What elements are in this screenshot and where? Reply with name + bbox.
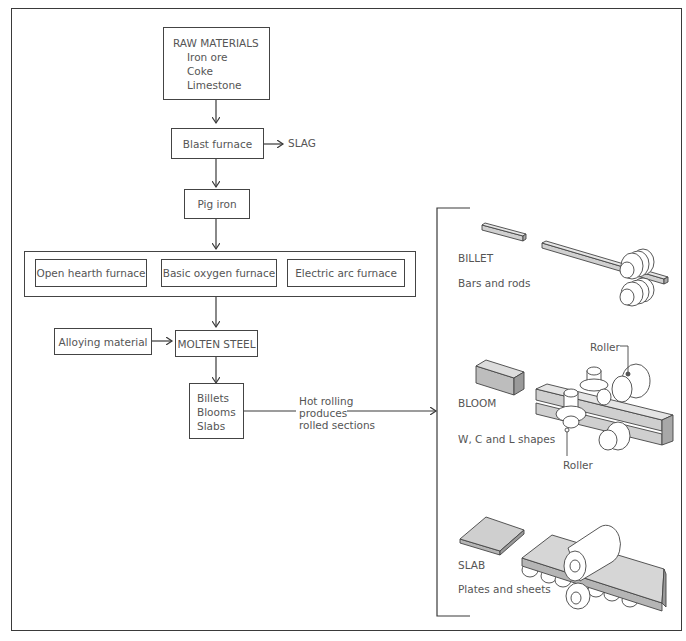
electric-arc-furnace-label: Electric arc furnace [295, 267, 397, 279]
roller-label-bottom: Roller [563, 458, 593, 473]
open-hearth-furnace-label: Open hearth furnace [36, 267, 145, 279]
hot-rolling-line: Hot rolling [299, 395, 375, 407]
roller-label-top: Roller [590, 340, 620, 355]
pig-iron-box: Pig iron [184, 189, 250, 219]
plates-and-sheets-label: Plates and sheets [458, 582, 551, 597]
hot-rolling-line: rolled sections [299, 419, 375, 431]
raw-material-item: Iron ore [173, 50, 228, 64]
wcl-shapes-label: W, C and L shapes [458, 432, 555, 447]
billet-label: BILLET [458, 251, 493, 266]
bars-and-rods-label: Bars and rods [458, 276, 531, 291]
molten-steel-label: MOLTEN STEEL [177, 338, 255, 350]
pig-iron-label: Pig iron [197, 198, 236, 210]
blast-furnace-box: Blast furnace [171, 128, 264, 159]
slag-label: SLAG [288, 136, 316, 151]
billets-label: Billets [197, 391, 229, 405]
raw-materials-box: RAW MATERIALS Iron ore Coke Limestone [163, 27, 270, 100]
alloying-material-box: Alloying material [54, 328, 152, 355]
slabs-label: Slabs [197, 419, 225, 433]
molten-steel-box: MOLTEN STEEL [175, 330, 258, 357]
hot-rolling-text: Hot rolling produces rolled sections [299, 395, 375, 431]
raw-materials-heading: RAW MATERIALS [173, 36, 259, 50]
blooms-label: Blooms [197, 405, 236, 419]
raw-material-item: Limestone [173, 78, 242, 92]
slab-label: SLAB [458, 558, 485, 573]
hot-rolling-line: produces [299, 407, 375, 419]
basic-oxygen-furnace-label: Basic oxygen furnace [163, 267, 276, 279]
electric-arc-furnace-box: Electric arc furnace [287, 259, 405, 287]
blast-furnace-label: Blast furnace [183, 138, 252, 150]
alloying-material-label: Alloying material [58, 336, 147, 348]
semi-finished-box: Billets Blooms Slabs [189, 383, 244, 439]
basic-oxygen-furnace-box: Basic oxygen furnace [161, 259, 277, 287]
bloom-label: BLOOM [458, 396, 496, 411]
raw-material-item: Coke [173, 64, 213, 78]
diagram-frame [11, 8, 682, 631]
open-hearth-furnace-box: Open hearth furnace [35, 259, 147, 287]
